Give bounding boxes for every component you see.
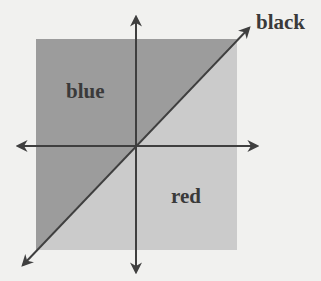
red-label: red — [171, 186, 201, 207]
coordinate-diagram — [0, 0, 321, 281]
black-label: black — [256, 12, 305, 33]
blue-label: blue — [66, 81, 105, 102]
